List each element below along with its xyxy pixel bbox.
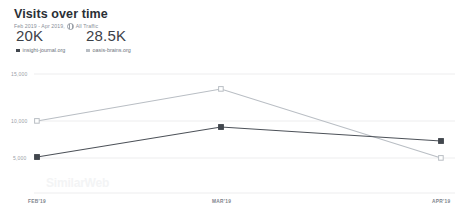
data-point-oasis-feb[interactable]: [35, 119, 40, 124]
legend-swatch-icon: [86, 49, 90, 53]
y-axis-tick-5000: 5,000: [13, 155, 27, 161]
y-axis-tick-15000: 15,000: [11, 71, 28, 77]
metric-insight-journal: 20K insight-journal.org: [16, 27, 80, 54]
data-point-oasis-apr[interactable]: [439, 156, 444, 161]
data-point-insight-feb[interactable]: [35, 155, 40, 160]
data-point-insight-apr[interactable]: [439, 139, 444, 144]
legend-label: insight-journal.org: [23, 47, 66, 54]
x-axis-tick-mar: MAR'19: [212, 199, 231, 205]
metric-oasis-brains: 28.5K oasis-brains.org: [86, 27, 131, 54]
legend-swatch-icon: [16, 49, 20, 53]
x-axis-tick-feb: FEB'19: [28, 199, 46, 205]
metrics-row: 20K insight-journal.org 28.5K oasis-brai…: [16, 27, 131, 54]
data-point-insight-mar[interactable]: [219, 125, 224, 130]
page-title: Visits over time: [14, 7, 108, 21]
line-chart[interactable]: 15,000 10,000 5,000 FEB'19 MAR'19 APR'19: [0, 60, 462, 218]
visits-over-time-widget: Visits over time Feb 2019 - Apr 2019, Al…: [0, 0, 462, 218]
legend-label: oasis-brains.org: [93, 47, 131, 54]
data-point-oasis-mar[interactable]: [219, 87, 224, 92]
x-axis-tick-apr: APR'19: [432, 199, 450, 205]
legend-item-insight-journal[interactable]: insight-journal.org: [16, 47, 80, 54]
y-axis-tick-10000: 10,000: [11, 118, 28, 124]
series-line-insight-journal: [37, 127, 441, 157]
metric-value: 20K: [16, 27, 80, 45]
metric-value: 28.5K: [86, 27, 131, 45]
legend-item-oasis-brains[interactable]: oasis-brains.org: [86, 47, 131, 54]
chart-canvas: [0, 60, 462, 218]
similarweb-watermark: SimilarWeb: [46, 176, 109, 190]
